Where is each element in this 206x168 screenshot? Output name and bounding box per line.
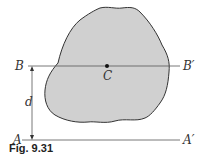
label-a-prime: A′ [182, 133, 195, 147]
label-c: C [103, 69, 112, 83]
label-d: d [25, 95, 33, 109]
figure-caption: Fig. 9.31 [9, 142, 53, 154]
centroid-point [105, 64, 109, 68]
arrowhead-bottom-icon [30, 135, 34, 140]
label-b: B [14, 59, 24, 73]
label-b-prime: B′ [182, 59, 195, 73]
arrowhead-top-icon [30, 66, 34, 71]
